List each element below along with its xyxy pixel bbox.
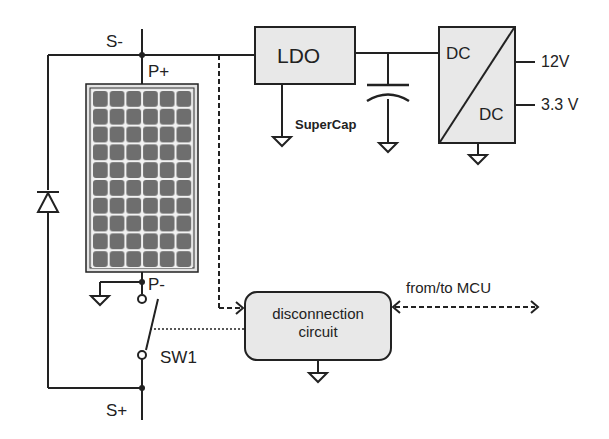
mcu-link-label: from/to MCU — [406, 280, 491, 295]
bypass-diode — [37, 190, 59, 212]
node-label-s-minus: S- — [106, 33, 123, 50]
disconnection-line-2: circuit — [245, 324, 391, 339]
output-12v-label: 12V — [541, 54, 569, 70]
dcdc-output-label: DC — [479, 106, 504, 123]
switch-sw1-label: SW1 — [160, 349, 197, 366]
solar-panel — [86, 84, 198, 272]
output-3v3-label: 3.3 V — [541, 97, 578, 113]
disconnection-line-1: disconnection — [245, 306, 391, 321]
circuit-diagram: S- P+ P- S+ LDO SuperCap DC DC 12V 3.3 V… — [0, 0, 609, 439]
dcdc-input-label: DC — [446, 45, 471, 62]
node-label-s-plus: S+ — [106, 402, 127, 419]
supercap-label: SuperCap — [295, 118, 356, 131]
node-label-p-minus: P- — [148, 276, 165, 293]
ldo-block-label: LDO — [277, 45, 320, 66]
node-label-p-plus: P+ — [148, 63, 169, 80]
disconnection-circuit-label: disconnection circuit — [245, 306, 391, 339]
